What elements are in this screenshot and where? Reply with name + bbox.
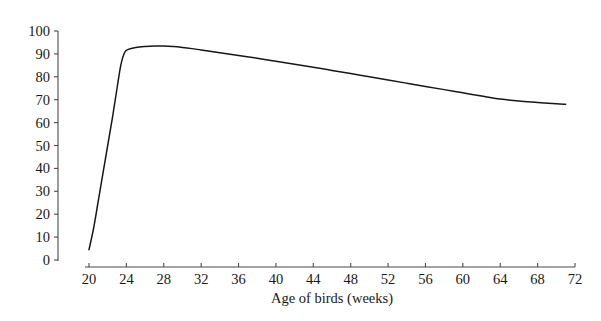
y-tick-label: 10: [36, 229, 51, 245]
x-tick-label: 44: [306, 271, 321, 287]
x-tick-label: 24: [119, 271, 134, 287]
data-line-egg-production-rate: [89, 46, 566, 250]
x-tick-label: 68: [530, 271, 545, 287]
y-tick-label: 50: [36, 138, 51, 154]
y-tick-label: 100: [28, 23, 50, 39]
x-tick-label: 32: [194, 271, 209, 287]
data-series-group: [89, 46, 566, 250]
x-tick-label: 56: [418, 271, 433, 287]
y-tick-label: 40: [36, 160, 51, 176]
x-tick-label: 52: [381, 271, 396, 287]
x-tick-label: 36: [231, 271, 246, 287]
x-axis-title: Age of birds (weeks): [271, 290, 393, 307]
chart-container: 0102030405060708090100 20242832364044485…: [0, 0, 601, 321]
y-tick-label: 0: [43, 252, 50, 268]
x-tick-label: 60: [456, 271, 471, 287]
line-chart: 0102030405060708090100 20242832364044485…: [0, 0, 601, 321]
y-tick-label: 90: [36, 46, 51, 62]
x-tick-label: 40: [269, 271, 284, 287]
x-tick-label: 72: [568, 271, 583, 287]
y-tick-label: 80: [36, 69, 51, 85]
y-tick-label: 60: [36, 115, 51, 131]
x-tick-label: 28: [157, 271, 172, 287]
x-tick-label: 20: [82, 271, 97, 287]
y-tick-label: 30: [36, 183, 51, 199]
x-tick-label: 64: [493, 271, 508, 287]
x-tick-label: 48: [343, 271, 358, 287]
x-axis: 2024283236404448525660646872: [82, 263, 583, 287]
y-tick-label: 20: [36, 206, 51, 222]
y-tick-label: 70: [36, 92, 51, 108]
y-axis: 0102030405060708090100: [28, 23, 58, 268]
